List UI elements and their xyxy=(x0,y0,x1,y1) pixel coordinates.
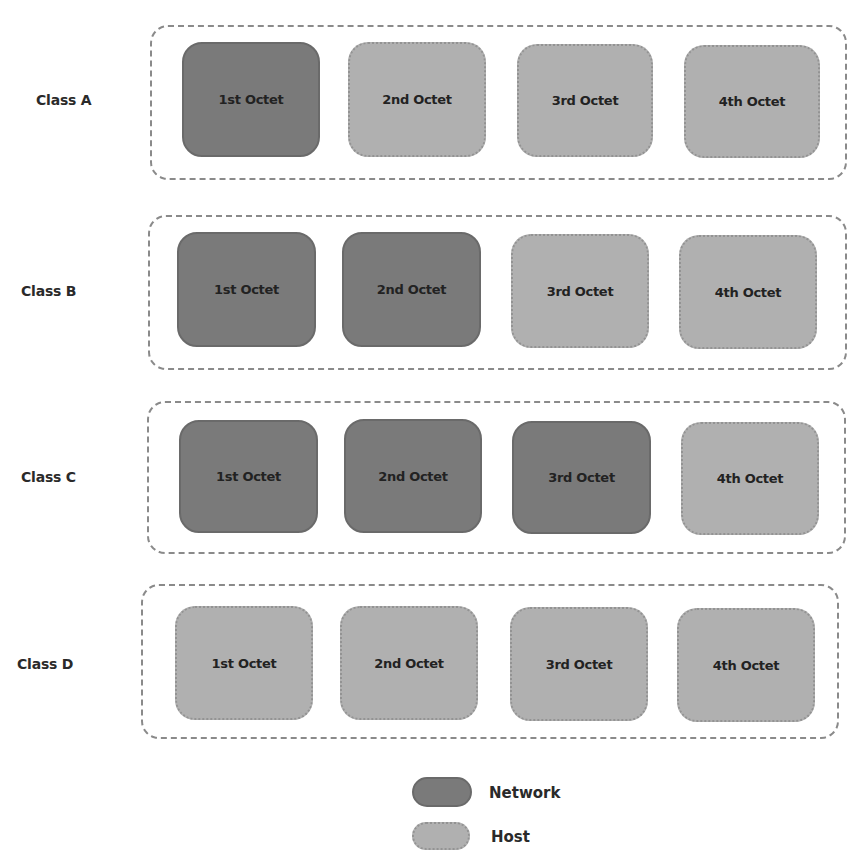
class-a-label: Class A xyxy=(36,92,92,108)
legend-network-label: Network xyxy=(489,784,560,802)
legend-host-swatch xyxy=(412,822,470,850)
class-b-octet-4: 4th Octet xyxy=(679,235,817,349)
class-c-octet-3: 3rd Octet xyxy=(512,421,651,534)
class-c-label: Class C xyxy=(21,469,76,485)
class-b-octet-2: 2nd Octet xyxy=(342,232,481,347)
class-c-octet-2: 2nd Octet xyxy=(344,419,482,533)
class-c-octet-4: 4th Octet xyxy=(681,422,819,535)
legend-network-swatch xyxy=(412,777,472,807)
class-d-label: Class D xyxy=(17,656,73,672)
class-d-octet-4: 4th Octet xyxy=(677,608,815,722)
class-d-octet-3: 3rd Octet xyxy=(510,607,648,721)
class-a-octet-2: 2nd Octet xyxy=(348,42,486,157)
legend-host-label: Host xyxy=(491,828,530,846)
class-b-octet-1: 1st Octet xyxy=(177,232,316,347)
class-a-octet-4: 4th Octet xyxy=(684,45,820,158)
class-d-octet-2: 2nd Octet xyxy=(340,606,478,720)
class-b-octet-3: 3rd Octet xyxy=(511,234,649,348)
class-a-octet-1: 1st Octet xyxy=(182,42,320,157)
class-a-octet-3: 3rd Octet xyxy=(517,44,653,157)
class-d-octet-1: 1st Octet xyxy=(175,606,313,720)
class-b-label: Class B xyxy=(21,283,76,299)
class-c-octet-1: 1st Octet xyxy=(179,420,318,533)
